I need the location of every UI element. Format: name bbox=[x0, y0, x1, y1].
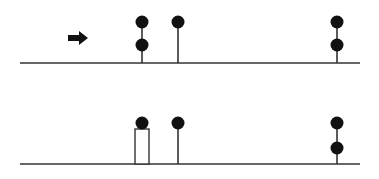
panel-bottom bbox=[20, 117, 360, 165]
arrow-right-icon bbox=[68, 31, 88, 45]
ball bbox=[136, 16, 149, 29]
diagram-canvas bbox=[0, 0, 379, 179]
ball bbox=[331, 39, 344, 52]
ball bbox=[331, 142, 344, 155]
ball bbox=[331, 117, 344, 130]
arrow-shape bbox=[68, 31, 88, 45]
ball bbox=[136, 117, 149, 130]
ball bbox=[172, 117, 185, 130]
box-column bbox=[135, 129, 149, 164]
ball bbox=[331, 16, 344, 29]
ball bbox=[136, 39, 149, 52]
ball bbox=[172, 16, 185, 29]
